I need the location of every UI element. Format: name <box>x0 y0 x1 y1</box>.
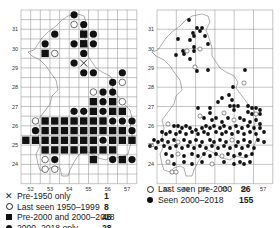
svg-text:24: 24 <box>12 161 18 167</box>
legend-item-seen-2000-2018: Seen 2000–2018 155 <box>145 195 280 206</box>
svg-text:27: 27 <box>12 104 18 110</box>
legend-label: Pre-2000 and 2000–2018 <box>17 212 114 223</box>
svg-text:28: 28 <box>148 84 154 90</box>
svg-text:26: 26 <box>148 123 154 129</box>
svg-text:31: 31 <box>12 26 18 32</box>
legend-item-pre-2000-and-2000-2018: Pre-2000 and 2000–2018 46 <box>4 212 140 223</box>
distribution-map-10km: 525354555657 3130292827262524 <box>0 0 140 196</box>
legend-item-last-seen-pre-2000: Last seen pre-2000 26 <box>145 184 280 195</box>
legend-left: ✕ Pre-1950 only 1 Last seen 1950–1999 8 … <box>4 191 140 228</box>
legend-label: Pre-1950 only <box>17 191 71 202</box>
cross-icon: ✕ <box>4 192 14 201</box>
legend-count: 1 <box>104 191 109 202</box>
coastline-outline <box>152 14 257 176</box>
legend-count: 28 <box>102 223 112 228</box>
svg-text:29: 29 <box>12 65 18 71</box>
legend-label: Seen 2000–2018 <box>158 195 223 206</box>
svg-text:26: 26 <box>12 123 18 129</box>
y-axis-ticks: 3130292827262524 <box>12 26 18 167</box>
svg-text:30: 30 <box>12 46 18 52</box>
grid-lines <box>157 10 273 184</box>
open-circle-icon <box>4 203 14 210</box>
legend-label: Last seen pre-2000 <box>158 184 232 195</box>
svg-text:28: 28 <box>12 84 18 90</box>
legend-label: Last seen 1950–1999 <box>17 202 100 213</box>
legend-right: Last seen pre-2000 26 Seen 2000–2018 155 <box>145 184 280 205</box>
left-map-svg: 525354555657 3130292827262524 <box>0 0 140 196</box>
legend-count: 26 <box>241 184 251 195</box>
svg-text:30: 30 <box>148 46 154 52</box>
svg-text:27: 27 <box>148 104 154 110</box>
filled-circle-icon <box>4 225 14 228</box>
right-map-svg: 525354555657 3130292827262524 <box>140 0 280 196</box>
filled-circle-icon <box>145 197 155 203</box>
legend-item-2000-2018-only: 2000–2018 only 28 <box>4 223 140 228</box>
legend-item-last-seen-1950-1999: Last seen 1950–1999 8 <box>4 202 140 213</box>
open-circle-icon <box>145 186 155 193</box>
legend-count: 46 <box>102 212 112 223</box>
svg-text:31: 31 <box>148 26 154 32</box>
legend-label: 2000–2018 only <box>17 223 78 228</box>
y-axis-ticks: 3130292827262524 <box>148 26 154 167</box>
legend-count: 8 <box>104 202 109 213</box>
distribution-map-tetrad: 525354555657 3130292827262524 <box>140 0 280 196</box>
filled-square-icon <box>4 214 14 220</box>
svg-text:25: 25 <box>12 142 18 148</box>
legend-item-pre-1950: ✕ Pre-1950 only 1 <box>4 191 140 202</box>
legend-count: 155 <box>239 195 253 206</box>
svg-text:24: 24 <box>148 161 154 167</box>
svg-text:29: 29 <box>148 65 154 71</box>
svg-text:25: 25 <box>148 142 154 148</box>
